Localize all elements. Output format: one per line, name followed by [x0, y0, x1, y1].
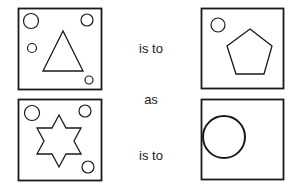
panel-b — [200, 7, 286, 90]
connector-is-to-bottom: is to — [121, 148, 181, 163]
triangle-icon — [43, 31, 83, 71]
small-circle-icon — [28, 44, 37, 53]
panel-a — [17, 7, 103, 91]
small-circle-icon — [85, 76, 93, 84]
panel-frame — [202, 100, 284, 180]
panel-b-figure — [200, 7, 286, 90]
panel-frame — [19, 9, 102, 90]
small-circle-icon — [82, 161, 94, 173]
small-circle-icon — [24, 14, 39, 29]
connector-as: as — [121, 92, 181, 107]
connector-is-to-top: is to — [121, 41, 181, 56]
panel-d — [200, 98, 286, 181]
star-icon — [37, 115, 81, 167]
small-circle-icon — [211, 18, 225, 32]
pentagon-icon — [227, 29, 272, 74]
panel-a-figure — [17, 7, 103, 91]
panel-c — [17, 98, 103, 182]
panel-c-figure — [17, 98, 103, 182]
small-circle-icon — [81, 14, 93, 26]
panel-frame — [19, 100, 102, 181]
panel-d-figure — [200, 98, 286, 181]
small-circle-icon — [79, 105, 91, 117]
small-circle-icon — [25, 106, 40, 121]
large-circle-icon — [203, 116, 245, 158]
